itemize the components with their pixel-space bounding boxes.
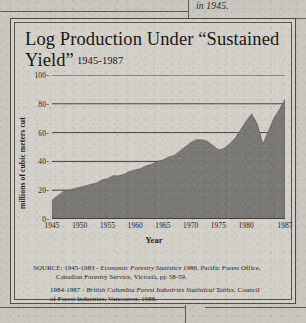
page-rule-bottom-right	[205, 307, 306, 308]
x-tick-1987: 1987	[277, 221, 292, 230]
source-line-4: of Forest Industries, Vancouver, 1988.	[33, 294, 283, 303]
x-tick-1945: 1945	[44, 221, 59, 230]
plot-area	[52, 75, 285, 219]
source-line-1-title: Economic Forestry Statistics	[100, 264, 181, 271]
source-line-2: Canadian Forestry Service, Victoria, pp …	[33, 272, 283, 281]
page-column-divider-bottom	[185, 305, 186, 323]
y-tick-40: 40	[38, 157, 49, 166]
figure-inner-border: Log Production Under “Sustained Yield”19…	[14, 22, 292, 300]
source-line-1-prefix: SOURCE: 1945-1983 -	[33, 264, 100, 271]
x-tick-1950: 1950	[72, 221, 87, 230]
x-tick-1970: 1970	[183, 221, 198, 230]
chart-title: Log Production Under “Sustained Yield”19…	[25, 29, 287, 73]
page-rule-top-left	[0, 11, 188, 12]
page-column-divider-top	[188, 0, 189, 20]
x-axis-label: Year	[15, 236, 293, 245]
chart-title-line-2: Yield”1945-1987	[25, 50, 287, 73]
source-note: SOURCE: 1945-1983 - Economic Forestry St…	[33, 263, 283, 303]
chart-title-line-1: Log Production Under “Sustained	[25, 29, 287, 50]
source-line-3-title: British Columbia Forest Industries Stati…	[86, 286, 234, 293]
y-axis-ticks: 020406080100	[29, 75, 51, 219]
x-tick-1975: 1975	[211, 221, 226, 230]
x-tick-1980: 1980	[239, 221, 254, 230]
figure-box: Log Production Under “Sustained Yield”19…	[10, 18, 296, 304]
source-line-1-suffix: 1986, Pacific Forest Office,	[181, 264, 260, 271]
adjacent-body-text: in 1945.	[196, 1, 229, 11]
x-tick-1965: 1965	[155, 221, 170, 230]
page-fragment: in 1945. Log Production Under “Sustained…	[0, 0, 306, 323]
area-series-log-production	[52, 99, 285, 219]
y-tick-80: 80	[38, 99, 49, 108]
y-tick-60: 60	[38, 128, 49, 137]
y-tick-100: 100	[35, 71, 49, 80]
source-line-3-prefix: 1984-1987 -	[50, 286, 86, 293]
chart-title-line-2-text: Yield”	[25, 50, 74, 70]
source-line-1: SOURCE: 1945-1983 - Economic Forestry St…	[33, 263, 283, 272]
y-tick-20: 20	[38, 186, 49, 195]
plot-container: millions of cubic meters cut 02040608010…	[15, 75, 293, 257]
page-rule-bottom-left	[0, 307, 185, 308]
area-chart-svg	[52, 75, 285, 219]
x-tick-1960: 1960	[128, 221, 143, 230]
x-axis-ticks: 194519501955196019651970197519801987	[52, 221, 285, 235]
source-line-3-suffix: , Council	[234, 286, 260, 293]
x-tick-1955: 1955	[100, 221, 115, 230]
source-line-3: 1984-1987 - British Columbia Forest Indu…	[33, 285, 283, 294]
chart-title-year-range: 1945-1987	[74, 55, 123, 66]
